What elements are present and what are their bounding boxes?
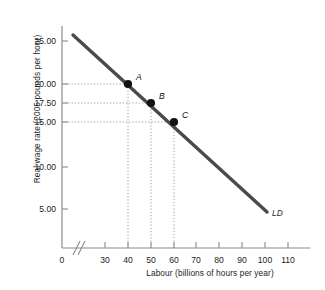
x-tick-marks xyxy=(105,242,288,248)
data-point-a xyxy=(124,80,132,88)
y-tick-marks xyxy=(62,41,68,209)
labour-demand-curve xyxy=(73,35,267,212)
point-label-a: A xyxy=(136,73,142,82)
point-label-c: C xyxy=(182,111,188,120)
x-tick-label-110: 110 xyxy=(273,256,303,265)
y-axis-title: Real wage rate (2005 pounds per hour) xyxy=(32,7,42,212)
data-point-b xyxy=(147,99,155,107)
x-axis-title: Labour (billions of hours per year) xyxy=(96,268,324,278)
curve-label-ld: LD xyxy=(272,209,283,217)
data-point-c xyxy=(170,118,178,126)
guide-lines-vertical xyxy=(128,84,174,248)
labour-demand-chart: 25.00 20.00 17.50 15.00 10.00 5.00 0 30 … xyxy=(0,0,325,290)
point-label-b: B xyxy=(159,92,165,101)
guide-lines-horizontal xyxy=(62,84,174,122)
x-tick-label-0: 0 xyxy=(47,256,77,265)
